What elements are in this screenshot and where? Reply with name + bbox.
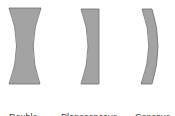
planoconcave-lens bbox=[81, 9, 99, 84]
label-line: Concave bbox=[135, 112, 173, 116]
concave-meniscus-label: Concave meniscus bbox=[135, 90, 173, 116]
planoconcave-label: Planoconcave bbox=[61, 90, 118, 116]
double-concave-label: Double concave bbox=[9, 90, 43, 116]
label-line: Double bbox=[9, 112, 43, 116]
concave-meniscus-lens bbox=[141, 9, 158, 84]
label-line: Planoconcave bbox=[61, 112, 118, 116]
double-concave-lens bbox=[9, 8, 41, 84]
